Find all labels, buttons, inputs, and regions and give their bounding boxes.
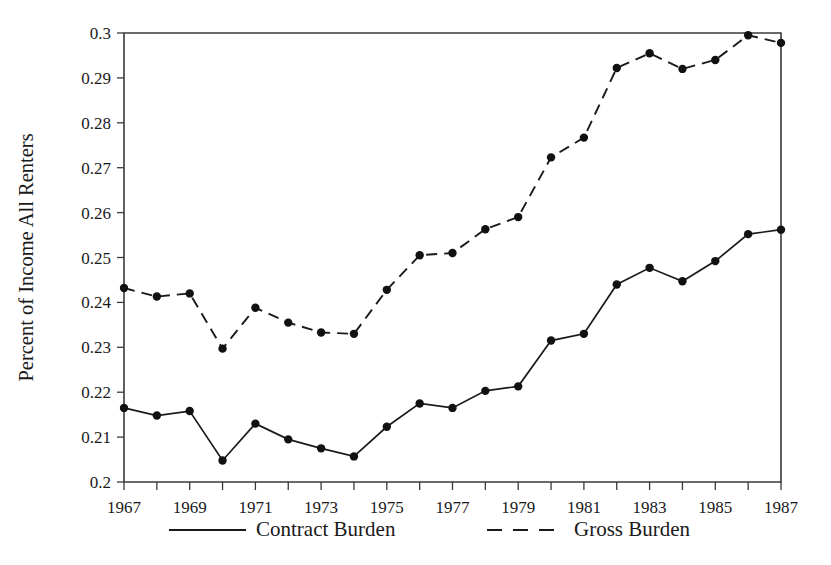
data-point (186, 407, 194, 415)
y-axis-tick-label: 0.24 (81, 293, 111, 312)
data-point (120, 404, 128, 412)
data-point (350, 330, 358, 338)
data-point (580, 330, 588, 338)
data-point (580, 133, 588, 141)
x-axis-tick-label: 1981 (567, 498, 601, 517)
data-point (153, 411, 161, 419)
y-axis-tick-label: 0.26 (81, 204, 111, 223)
data-point (448, 404, 456, 412)
data-point (744, 230, 752, 238)
data-point (514, 213, 522, 221)
y-axis-tick-label: 0.29 (81, 69, 111, 88)
y-axis-tick-labels: 0.20.210.220.230.240.250.260.270.280.290… (81, 24, 111, 492)
x-axis-tick-label: 1985 (698, 498, 732, 517)
data-series (120, 31, 785, 465)
data-point (744, 31, 752, 39)
data-point (678, 277, 686, 285)
data-point (547, 336, 555, 344)
series-line-gross-burden (124, 35, 781, 348)
data-point (251, 419, 259, 427)
data-point (481, 225, 489, 233)
data-point (514, 382, 522, 390)
y-axis-tick-label: 0.3 (90, 24, 111, 43)
data-point (613, 64, 621, 72)
data-point (678, 65, 686, 73)
y-axis-tick-label: 0.21 (81, 428, 111, 447)
data-point (415, 251, 423, 259)
data-point (317, 444, 325, 452)
legend-label-contract-burden: Contract Burden (256, 517, 396, 541)
line-chart: 0.20.210.220.230.240.250.260.270.280.290… (0, 0, 831, 565)
chart-legend: Contract BurdenGross Burden (169, 517, 691, 541)
data-point (218, 344, 226, 352)
data-point (284, 435, 292, 443)
data-point (481, 387, 489, 395)
data-point (383, 286, 391, 294)
data-point (777, 225, 785, 233)
y-axis-tick-label: 0.2 (90, 473, 111, 492)
data-point (645, 264, 653, 272)
plot-frame (124, 33, 781, 482)
y-axis-tick-label: 0.23 (81, 338, 111, 357)
data-point (350, 452, 358, 460)
data-point (186, 289, 194, 297)
y-axis-tick-label: 0.27 (81, 159, 111, 178)
data-point (547, 153, 555, 161)
data-point (777, 39, 785, 47)
x-axis-tick-label: 1975 (370, 498, 404, 517)
data-point (383, 423, 391, 431)
data-point (317, 328, 325, 336)
legend-label-gross-burden: Gross Burden (574, 517, 691, 541)
data-point (120, 284, 128, 292)
y-axis-tick-label: 0.28 (81, 114, 111, 133)
data-point (645, 49, 653, 57)
data-point (415, 399, 423, 407)
x-axis-tick-label: 1967 (107, 498, 142, 517)
y-axis-title-text: Percent of Income All Renters (15, 133, 37, 381)
data-point (613, 280, 621, 288)
y-axis-tick-label: 0.22 (81, 383, 111, 402)
axis-ticks (117, 33, 781, 490)
chart-figure: 0.20.210.220.230.240.250.260.270.280.290… (0, 0, 831, 565)
data-point (153, 292, 161, 300)
data-point (711, 257, 719, 265)
x-axis-tick-labels: 1967196919711973197519771979198119831985… (107, 498, 799, 517)
data-point (711, 56, 719, 64)
x-axis-tick-label: 1979 (501, 498, 535, 517)
x-axis-tick-label: 1987 (764, 498, 799, 517)
data-point (448, 249, 456, 257)
x-axis-tick-label: 1971 (238, 498, 272, 517)
y-axis-tick-label: 0.25 (81, 249, 111, 268)
x-axis-tick-label: 1977 (436, 498, 471, 517)
data-point (284, 318, 292, 326)
data-point (251, 304, 259, 312)
data-point (218, 456, 226, 464)
axes (124, 33, 781, 482)
y-axis-title: Percent of Income All Renters (15, 133, 37, 381)
x-axis-tick-label: 1973 (304, 498, 338, 517)
x-axis-tick-label: 1983 (633, 498, 667, 517)
x-axis-tick-label: 1969 (173, 498, 207, 517)
